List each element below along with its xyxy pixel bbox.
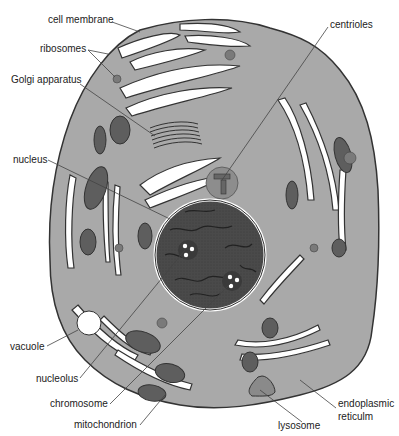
- label-lysosome: lysosome: [278, 420, 320, 432]
- label-endoplasmic-reticulum-line2: reticulm: [338, 411, 373, 423]
- label-vacuole: vacuole: [10, 341, 44, 353]
- centrioles-shape: [206, 167, 238, 199]
- cell-diagram: [0, 0, 399, 436]
- label-nucleolus: nucleolus: [36, 373, 78, 385]
- label-cell-membrane: cell membrane: [48, 14, 114, 26]
- label-centrioles: centrioles: [330, 19, 373, 31]
- label-chromosome: chromosome: [50, 398, 108, 410]
- label-ribosomes: ribosomes: [40, 43, 86, 55]
- vacuole-shape: [77, 311, 101, 335]
- label-golgi-apparatus: Golgi apparatus: [11, 74, 82, 86]
- nucleus-shape: [155, 200, 265, 310]
- label-mitochondrion: mitochondrion: [74, 419, 137, 431]
- label-nucleus: nucleus: [13, 154, 47, 166]
- label-endoplasmic-reticulum-line1: endoplasmic: [338, 398, 394, 410]
